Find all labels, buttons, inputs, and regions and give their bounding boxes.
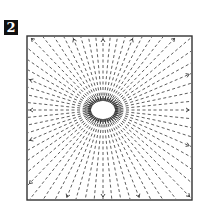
- dashed-ray: [112, 38, 191, 105]
- dashed-ray: [108, 37, 134, 102]
- radial-dashed-lines: [28, 37, 191, 199]
- dashed-ray: [110, 117, 163, 199]
- arrowhead-icon: [30, 137, 34, 141]
- dashed-ray: [28, 111, 91, 118]
- dashed-ray: [44, 117, 97, 199]
- arrowhead-icon: [66, 194, 70, 198]
- dashed-ray: [64, 37, 97, 102]
- dashed-ray: [114, 113, 191, 137]
- arrowhead-icon: [136, 194, 140, 198]
- dashed-ray: [76, 119, 100, 199]
- arrowhead-icon: [186, 193, 190, 197]
- dashed-ray: [112, 116, 191, 183]
- arrowhead-icon: [73, 39, 77, 43]
- dashed-ray: [115, 111, 191, 119]
- arrowhead-icon: [30, 108, 33, 112]
- dashed-ray: [108, 118, 140, 199]
- dashed-ray: [106, 119, 130, 199]
- dashed-ray: [111, 116, 191, 198]
- dashed-ray: [30, 37, 95, 104]
- dashed-ray: [66, 118, 98, 199]
- dashed-ray: [28, 70, 92, 106]
- center-opening: [92, 102, 114, 118]
- arrowhead-icon: [129, 39, 133, 43]
- center-stitch: [85, 111, 91, 112]
- dashed-ray: [111, 37, 176, 104]
- dashed-ray: [73, 37, 99, 102]
- dashed-ray: [104, 37, 110, 101]
- dashed-ray: [28, 103, 91, 110]
- dashed-ray: [28, 114, 92, 150]
- center-stitch: [85, 108, 91, 109]
- arrowhead-icon: [30, 79, 34, 83]
- dashed-ray: [115, 92, 191, 108]
- arrowhead-icon: [101, 194, 105, 197]
- dashed-ray: [28, 113, 92, 141]
- dashed-ray: [30, 117, 95, 199]
- dashed-ray: [114, 74, 191, 107]
- dashed-ray: [96, 37, 102, 101]
- dashed-ray: [111, 117, 176, 199]
- radial-dashed-illustration: [0, 0, 200, 215]
- dashed-ray: [115, 112, 191, 128]
- dashed-ray: [109, 37, 142, 102]
- center-stitch: [115, 111, 121, 112]
- center-stitch: [115, 108, 121, 109]
- dashed-ray: [115, 101, 191, 109]
- dashed-ray: [28, 79, 92, 107]
- dashed-ray: [114, 83, 191, 107]
